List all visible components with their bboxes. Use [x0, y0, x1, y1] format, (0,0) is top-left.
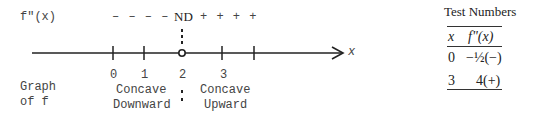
function-label: f"(x)	[20, 10, 56, 24]
graph-label-line1: Graph	[20, 80, 56, 94]
tick-label-3: 3	[220, 68, 227, 82]
interval-right-line2: Upward	[204, 98, 247, 112]
negative-signs: – – – –	[112, 10, 169, 24]
row-0-x: 0	[448, 50, 455, 66]
graph-label-line2: of f	[20, 95, 49, 109]
tick-label-0: 0	[110, 68, 117, 82]
interval-left-line2: Downward	[113, 98, 171, 112]
table-bottom-rule	[447, 89, 502, 90]
table-title: Test Numbers	[444, 4, 516, 20]
row-1-x: 3	[448, 73, 455, 89]
header-fxx: f"(x)	[468, 29, 493, 45]
interval-left-line1: Concave	[116, 83, 166, 97]
interval-right-line1: Concave	[200, 83, 250, 97]
tick-label-1: 1	[141, 68, 148, 82]
tick-label-2: 2	[179, 68, 186, 82]
row-1-value: 4(+)	[476, 73, 500, 89]
row-0-value: −½(−)	[466, 50, 502, 66]
positive-signs: + + + +	[200, 10, 257, 24]
axis-label: x	[348, 45, 355, 59]
table-top-rule	[447, 26, 502, 27]
nd-label: ND	[174, 9, 193, 25]
header-x: x	[448, 29, 454, 45]
table-header-rule	[447, 46, 502, 47]
